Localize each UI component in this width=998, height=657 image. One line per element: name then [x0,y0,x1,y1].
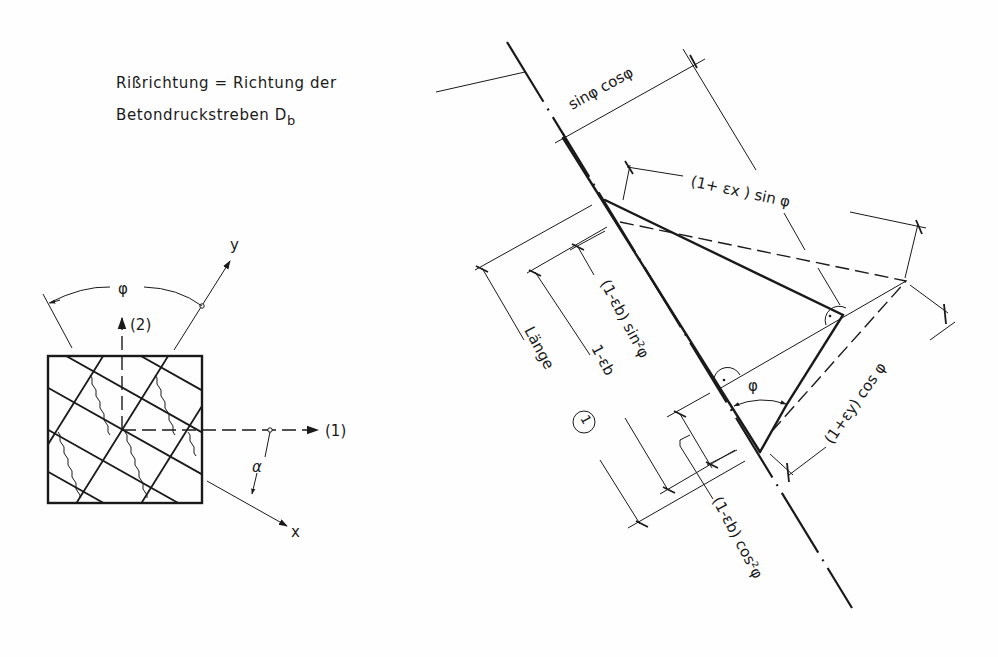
caption: Rißrichtung = Richtung der Betondruckstr… [116,72,525,128]
alpha-label: α [252,458,262,476]
deformation-diagram: φ sinφ cosφ (1+ εx ) sin φ (1+εy) cos φ [475,42,955,608]
dim-cos2: (1-εb) cos²φ [708,493,766,581]
dim-ey-cos: (1+εy) cos φ [821,359,891,448]
x-axis-arrow [207,481,287,526]
crack-lines [58,375,196,498]
dim-ex-sin: (1+ εx ) sin φ [689,172,792,211]
axis-1-label: (1) [325,422,346,440]
dim-laenge: Länge [520,323,557,372]
phi-label-right: φ [748,377,758,395]
reinforcement-grid [0,246,310,633]
circled-one: 1 [573,411,595,433]
phi-label-left: φ [118,280,128,298]
y-axis-label: y [230,236,239,254]
dimension-ticks [476,244,718,527]
diagram-svg: Rißrichtung = Richtung der Betondruckstr… [0,0,998,657]
deformed-shape [605,200,843,452]
caption-line-2-sub: b [287,113,296,128]
element-sketch: (2) (1) y x φ α [0,236,346,633]
caption-leader-line [436,72,525,92]
axis-2-label: (2) [130,316,151,334]
dim-1-minus-eb: 1-εb [587,341,618,378]
dim-sin-cos: sinφ cosφ [565,63,636,113]
diagram-canvas: Rißrichtung = Richtung der Betondruckstr… [0,0,998,657]
x-axis-label: x [291,523,300,541]
caption-line-1: Rißrichtung = Richtung der [116,74,337,92]
caption-line-2-main: Betondruckstreben D [116,106,287,124]
svg-text:1: 1 [577,412,594,426]
caption-line-2: Betondruckstreben Db [116,106,296,128]
